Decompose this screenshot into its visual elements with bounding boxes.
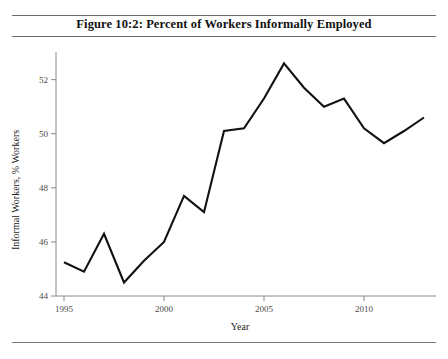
x-axis-title: Year (231, 321, 250, 332)
line-chart: 4446485052 1995200020052010 Informal Wor… (0, 40, 448, 340)
y-tick-label: 48 (39, 183, 49, 193)
y-tick-label: 44 (39, 291, 49, 301)
chart-area: 4446485052 1995200020052010 Informal Wor… (0, 40, 448, 340)
x-tick-label: 1995 (55, 304, 74, 314)
footer-rule (12, 342, 436, 343)
figure-page: Figure 10:2: Percent of Workers Informal… (0, 0, 448, 359)
title-rule-bottom (12, 36, 436, 37)
y-axis-title: Informal Workers, % Workers (10, 130, 21, 250)
x-axis: 1995200020052010 (55, 296, 436, 314)
y-tick-label: 52 (39, 75, 48, 85)
data-line-informal-workers (64, 63, 424, 282)
x-tick-label: 2000 (155, 304, 174, 314)
y-tick-label: 46 (39, 237, 49, 247)
y-tick-label: 50 (39, 129, 49, 139)
title-rule-top (12, 15, 436, 16)
figure-title: Figure 10:2: Percent of Workers Informal… (0, 17, 448, 32)
x-tick-label: 2010 (355, 304, 374, 314)
x-tick-label: 2005 (255, 304, 274, 314)
data-series-group (64, 63, 424, 282)
y-axis: 4446485052 (39, 52, 56, 301)
